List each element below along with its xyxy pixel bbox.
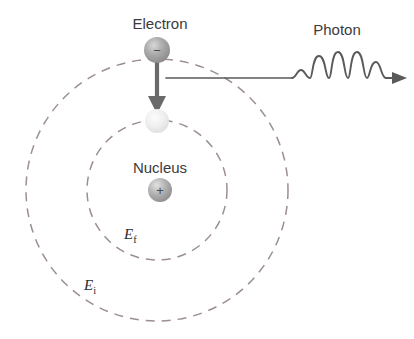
electron-label: Electron [132, 15, 187, 32]
nucleus-label: Nucleus [133, 159, 187, 176]
nucleus-charge-sign: + [156, 183, 164, 198]
electron-charge-sign: − [153, 43, 161, 58]
energy-initial-label: Ei [83, 277, 96, 296]
electron-landing-sphere [145, 109, 169, 133]
diagram-canvas: − + Electron Photon Nucleus Ef Ei [0, 0, 414, 339]
energy-final-label: Ef [123, 226, 137, 245]
photon-wave [292, 52, 386, 78]
energy-initial-subscript: i [93, 285, 96, 296]
photon-arrowhead-icon [392, 72, 407, 84]
atomic-transition-diagram: − + Electron Photon Nucleus Ef Ei [0, 0, 414, 339]
energy-final-symbol: E [123, 226, 133, 242]
photon-label: Photon [313, 21, 361, 38]
energy-initial-symbol: E [83, 277, 93, 293]
energy-final-subscript: f [133, 234, 137, 245]
